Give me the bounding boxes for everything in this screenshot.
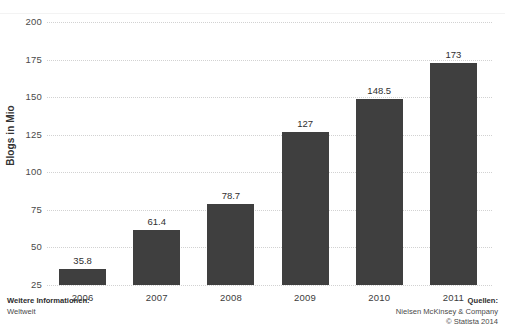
y-axis-tick: 200	[26, 17, 42, 27]
bar	[59, 269, 106, 285]
bar-value-label: 173	[416, 50, 491, 60]
gridline	[47, 247, 492, 248]
y-axis-tick: 100	[26, 167, 42, 177]
bar-chart: Blogs in Mio 200175150125100755025 35.86…	[0, 14, 505, 290]
footer-copyright: © Statista 2014	[396, 317, 498, 328]
gridline	[47, 60, 492, 61]
bar-value-label: 148.5	[342, 86, 417, 96]
bar-value-label: 127	[268, 119, 343, 129]
bar	[133, 230, 180, 285]
footer-source-name: Nielsen McKinsey & Company	[396, 307, 498, 318]
gridline	[47, 22, 492, 23]
footer-left-heading: Weitere Informationen:	[7, 296, 90, 307]
footer-more-information: Weitere Informationen: Weltweit	[7, 296, 90, 317]
gridline	[47, 97, 492, 98]
footer-sources: Quellen: Nielsen McKinsey & Company © St…	[396, 296, 498, 328]
y-axis-tick: 50	[31, 242, 42, 252]
y-axis-tick: 150	[26, 92, 42, 102]
bar-value-label: 61.4	[119, 217, 194, 227]
bar-value-label: 35.8	[45, 256, 120, 266]
bar	[207, 204, 254, 285]
bar-value-label: 78.7	[193, 191, 268, 201]
y-axis-tick: 25	[31, 280, 42, 290]
bar	[282, 132, 329, 285]
y-axis-tick: 175	[26, 55, 42, 65]
gridline	[47, 210, 492, 211]
gridline	[47, 172, 492, 173]
footer-left-text: Weltweit	[7, 307, 90, 318]
gridline	[47, 135, 492, 136]
bar	[430, 63, 477, 285]
footer-right-heading: Quellen:	[396, 296, 498, 307]
chart-footer: Weitere Informationen: Weltweit Quellen:…	[0, 296, 505, 331]
y-axis-tick-labels: 200175150125100755025	[0, 22, 42, 285]
gridline	[47, 285, 492, 286]
plot-area: 35.861.478.7127148.5173	[47, 22, 492, 285]
bar	[356, 99, 403, 285]
y-axis-tick: 75	[31, 205, 42, 215]
y-axis-tick: 125	[26, 130, 42, 140]
